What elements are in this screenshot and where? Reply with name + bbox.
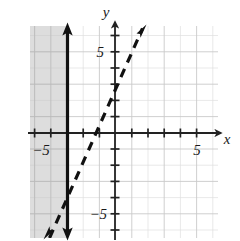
y-axis-label: y bbox=[101, 4, 110, 20]
y-tick-label-neg5: −5 bbox=[89, 206, 107, 222]
coordinate-graph-figure: −5 5 5 −5 y x bbox=[0, 0, 240, 241]
y-tick-label-pos5: 5 bbox=[97, 44, 105, 60]
graph-canvas: −5 5 5 −5 y x bbox=[0, 0, 240, 241]
x-axis-label: x bbox=[223, 131, 231, 147]
x-tick-label-neg5: −5 bbox=[32, 142, 50, 158]
x-tick-label-pos5: 5 bbox=[193, 142, 201, 158]
